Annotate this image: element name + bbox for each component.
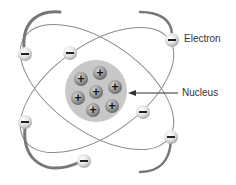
svg-text:+: +: [96, 66, 103, 80]
svg-text:+: +: [92, 85, 99, 99]
proton: +: [108, 80, 122, 94]
proton: +: [74, 72, 88, 86]
electron: [63, 46, 77, 60]
proton: +: [71, 91, 85, 105]
electron: [165, 33, 179, 47]
nucleus: + + + + + + +: [65, 60, 127, 122]
nucleus-label: Nucleus: [182, 87, 218, 98]
proton: +: [93, 66, 107, 80]
electron: [77, 154, 91, 168]
svg-text:+: +: [77, 72, 84, 86]
nucleus-pointer-arrow: [128, 90, 178, 96]
proton: +: [105, 99, 119, 113]
electron-label: Electron: [184, 33, 221, 44]
electron: [136, 105, 150, 119]
svg-text:+: +: [111, 80, 118, 94]
svg-text:+: +: [74, 91, 81, 105]
svg-text:+: +: [89, 103, 96, 117]
electron: [164, 130, 178, 144]
svg-text:+: +: [108, 99, 115, 113]
proton: +: [86, 103, 100, 117]
electron: [18, 47, 32, 61]
proton: +: [89, 85, 103, 99]
electron: [18, 115, 32, 129]
